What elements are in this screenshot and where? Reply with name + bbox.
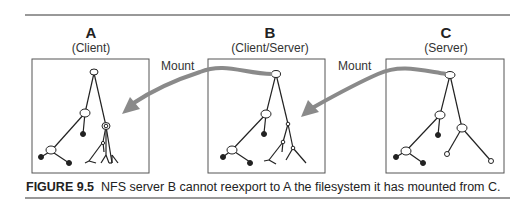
tree-b-nodes [221, 71, 295, 166]
figure-caption-text: NFS server B cannot reexport to A the fi… [101, 180, 500, 194]
machine-c-role: (Server) [424, 41, 467, 55]
mount-label-c-to-b: Mount [338, 59, 371, 73]
machine-b-letter: B [265, 24, 276, 41]
figure-caption: FIGURE 9.5 NFS server B cannot reexport … [26, 180, 501, 194]
machine-a-role: (Client) [72, 41, 111, 55]
machine-b-role: (Client/Server) [231, 41, 308, 55]
machine-c-letter: C [441, 24, 452, 41]
mount-label-b-to-a: Mount [161, 59, 194, 73]
figure-number: FIGURE 9.5 [26, 180, 94, 194]
machine-a-box [32, 59, 149, 173]
machine-a-letter: A [86, 24, 97, 41]
tree-c-nodes [394, 72, 494, 166]
mount-arrow-c-to-b [301, 69, 446, 117]
tree-a-nodes [39, 69, 111, 166]
mount-arrow-b-to-a [122, 68, 272, 114]
